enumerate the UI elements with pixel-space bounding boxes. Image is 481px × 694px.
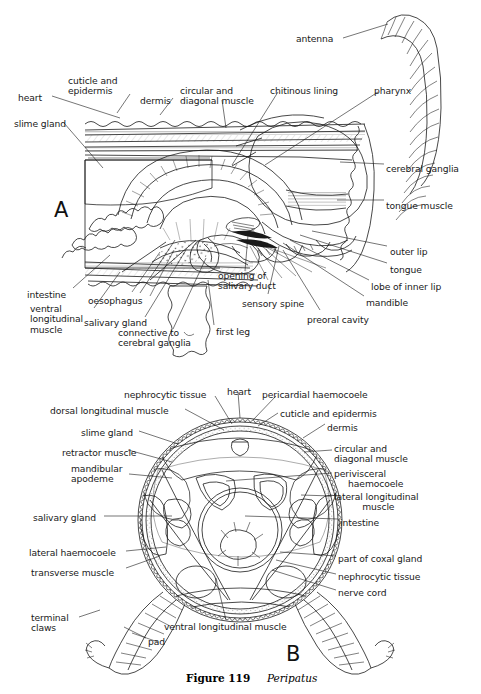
label-retractor-muscle: retractor muscle [62, 448, 136, 458]
leader-nephrocytic-tissue-top [215, 396, 232, 424]
label-intestine: intestine [340, 518, 379, 528]
leader-pad [124, 627, 146, 638]
leader-slime-gland [139, 431, 178, 444]
label-ventral-long-muscle: ventral longitudinal muscle [164, 622, 287, 632]
label-transverse-muscle: transverse muscle [31, 568, 114, 578]
label-terminal-claws: terminal claws [31, 613, 69, 634]
leader-mandibular-apodeme [129, 474, 172, 478]
label-nerve-cord: nerve cord [338, 588, 386, 598]
label-part-of-coxal-gland: part of coxal gland [338, 554, 422, 564]
figure-number: Figure 119 [186, 672, 250, 684]
leader-ventral-long-muscle [216, 578, 226, 620]
panel-b-illustration [0, 0, 481, 694]
figure-page: antennaheartcuticle and epidermisdermisc… [0, 0, 481, 694]
figure-caption: Figure 119 Peripatus [186, 672, 317, 684]
leader-transverse-muscle [126, 556, 160, 568]
label-dermis: dermis [327, 423, 358, 433]
leader-dorsal-long-muscle [185, 409, 224, 430]
label-mandibular-apodeme: mandibular apodeme [71, 464, 122, 485]
label-cuticle-epidermis: cuticle and epidermis [280, 409, 377, 419]
leader-intestine [245, 516, 338, 519]
label-nephrocytic-tissue-top: nephrocytic tissue [124, 390, 206, 400]
label-circular-diagonal: circular and diagonal muscle [334, 444, 408, 465]
leader-dermis [303, 424, 325, 438]
body-wall-cross-section [138, 418, 342, 622]
left-leg [85, 592, 185, 674]
label-nephrocytic-tissue-low: nephrocytic tissue [338, 572, 420, 582]
label-slime-gland: slime gland [81, 428, 133, 438]
label-lateral-long-muscle: lateral longitudinal muscle [334, 492, 419, 513]
leader-circular-diagonal [304, 450, 332, 452]
label-lateral-haemocoele: lateral haemocoele [29, 548, 116, 558]
leader-nephrocytic-tissue-low [276, 560, 336, 574]
leader-terminal-claws [79, 610, 100, 617]
label-perivisceral-haemocoele: perivisceral haemocoele [334, 469, 403, 490]
panel-b-letter: B [286, 642, 300, 666]
label-dorsal-long-muscle: dorsal longitudinal muscle [50, 406, 168, 416]
label-pericardial-haemocoele: pericardial haemocoele [262, 390, 368, 400]
label-salivary-gland: salivary gland [33, 513, 96, 523]
right-leg [295, 592, 395, 674]
leader-perivisceral-haemocoele [226, 473, 332, 481]
figure-genus: Peripatus [267, 672, 318, 684]
label-pad: pad [148, 637, 165, 647]
label-heart: heart [227, 387, 251, 397]
